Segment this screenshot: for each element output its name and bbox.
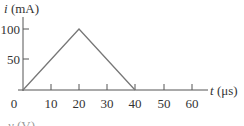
x-tick-30: 30 xyxy=(95,97,119,110)
y-tick-100: 100 xyxy=(0,23,20,36)
x-tick-50: 50 xyxy=(152,97,176,110)
x-tick-10: 10 xyxy=(39,97,63,110)
x-tick-0: 0 xyxy=(2,97,26,110)
x-tick-60: 60 xyxy=(180,97,204,110)
current-waveform xyxy=(23,29,135,90)
x-axis-label: t (μs) xyxy=(210,84,238,97)
y-axis-label: i (mA) xyxy=(4,2,39,15)
next-chart-label: v (V) xyxy=(8,119,35,126)
x-tick-20: 20 xyxy=(67,97,91,110)
y-tick-50: 50 xyxy=(0,53,20,66)
chart-plot xyxy=(0,0,244,126)
x-tick-40: 40 xyxy=(123,97,147,110)
